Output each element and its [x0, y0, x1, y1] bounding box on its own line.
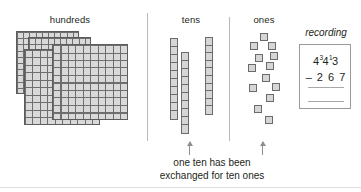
ones-cube [248, 64, 256, 72]
minuend-row: 43413 [300, 54, 352, 67]
caption-line-1: one ten has been [122, 157, 302, 170]
tens-rod-segment [182, 53, 188, 61]
tens-rod-segment [182, 69, 188, 77]
recording-title: recording [296, 27, 356, 38]
recording-box: 43413 – 2 6 7 [299, 44, 351, 109]
tens-rod-segment [171, 63, 177, 71]
tens-rod [170, 38, 178, 120]
ones-cube [262, 74, 270, 82]
ones-cube [250, 42, 258, 50]
tens-rod-segment [182, 101, 188, 109]
tens-rod [181, 52, 189, 134]
ones-cube [254, 105, 262, 113]
tens-rod-segment [171, 103, 177, 111]
tens-rod-segment [206, 38, 212, 46]
minuend-ones-digit: 3 [332, 55, 339, 67]
tens-rod-segment [171, 71, 177, 79]
tens-rod-segment [171, 55, 177, 63]
ones-cube [272, 83, 280, 91]
page-bottom-rule [0, 187, 361, 188]
answer-rule-2 [308, 101, 344, 102]
subtrahend-row: – 2 6 7 [300, 71, 352, 83]
tens-rod-segment [171, 87, 177, 95]
up-arrow-icon-ones [262, 142, 263, 155]
place-value-diagram: hundreds tens ones one ten has been exch… [0, 0, 361, 192]
tens-rod-segment [182, 93, 188, 101]
caption-line-2: exchanged for ten ones [122, 170, 302, 183]
tens-rod-segment [206, 84, 212, 92]
ones-cube [249, 84, 257, 92]
column-divider-tens-ones [229, 17, 230, 141]
tens-rod-segment [171, 47, 177, 55]
answer-rule-1 [308, 87, 344, 88]
column-label-ones: ones [232, 14, 296, 25]
tens-rod-segment [182, 109, 188, 117]
tens-rod-segment [171, 111, 177, 119]
tens-rod-segment [206, 53, 212, 61]
ones-cube [265, 116, 273, 124]
column-divider-hundreds-tens [147, 13, 148, 141]
tens-rod-segment [206, 106, 212, 114]
caption: one ten has been exchanged for ten ones [122, 157, 302, 182]
up-arrow-icon-tens [189, 142, 190, 155]
tens-rod-segment [171, 79, 177, 87]
column-label-tens: tens [152, 14, 230, 25]
tens-rod-segment [206, 68, 212, 76]
ones-cube [255, 54, 263, 62]
tens-rod-segment [182, 85, 188, 93]
tens-rod-segment [171, 39, 177, 47]
column-label-hundreds: hundreds [0, 14, 140, 25]
ones-cube [266, 94, 274, 102]
ones-cube [260, 33, 268, 41]
tens-rod-segment [182, 77, 188, 85]
tens-rod [205, 37, 213, 115]
tens-rod-segment [171, 95, 177, 103]
tens-rod-segment [206, 76, 212, 84]
tens-rod-segment [206, 91, 212, 99]
tens-rod-segment [206, 46, 212, 54]
ones-cube [266, 62, 274, 70]
tens-rod-segment [206, 99, 212, 107]
tens-rod-segment [182, 117, 188, 125]
hundreds-flat [52, 44, 128, 120]
tens-rod-segment [206, 61, 212, 69]
ones-cube [268, 42, 276, 50]
tens-rod-segment [182, 125, 188, 133]
tens-rod-segment [182, 61, 188, 69]
ones-cube [270, 52, 278, 60]
